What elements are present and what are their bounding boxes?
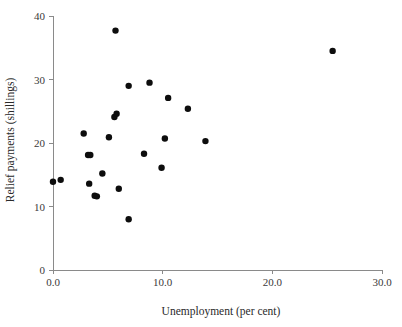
data-point-marker xyxy=(146,79,152,85)
data-point-marker xyxy=(57,177,63,183)
data-point-marker xyxy=(106,134,112,140)
data-point-marker xyxy=(94,193,100,199)
x-axis-tick-label: 0.0 xyxy=(46,276,60,288)
y-axis-tick-label: 30 xyxy=(34,74,46,86)
data-point-marker xyxy=(125,83,131,89)
x-axis-tick-label: 20.0 xyxy=(263,276,283,288)
y-axis-tick-label: 20 xyxy=(34,137,46,149)
x-axis-tick-label: 10.0 xyxy=(153,276,173,288)
data-point-marker xyxy=(125,216,131,222)
x-axis-title: Unemployment (per cent) xyxy=(162,305,281,318)
data-point-marker xyxy=(81,130,87,136)
data-point-marker xyxy=(165,95,171,101)
data-point-marker xyxy=(86,180,92,186)
data-point-marker xyxy=(87,152,93,158)
y-axis-tick-label: 40 xyxy=(34,10,46,22)
data-point-marker xyxy=(116,186,122,192)
data-point-marker xyxy=(112,27,118,33)
plot-background xyxy=(0,0,402,327)
x-axis-tick-label: 30.0 xyxy=(372,276,392,288)
y-axis-tick-label: 10 xyxy=(34,201,46,213)
data-point-marker xyxy=(113,111,119,117)
data-point-marker xyxy=(50,179,56,185)
data-point-marker xyxy=(329,48,335,54)
y-axis-tick-label: 0 xyxy=(40,264,46,276)
data-point-marker xyxy=(162,135,168,141)
data-point-marker xyxy=(202,138,208,144)
data-point-marker xyxy=(99,170,105,176)
data-point-marker xyxy=(185,106,191,112)
data-point-marker xyxy=(158,165,164,171)
data-point-marker xyxy=(141,151,147,157)
y-axis-title: Relief payments (shillings) xyxy=(4,78,17,203)
scatter-plot-figure: 010203040 0.010.020.030.0 Unemployment (… xyxy=(0,0,402,327)
